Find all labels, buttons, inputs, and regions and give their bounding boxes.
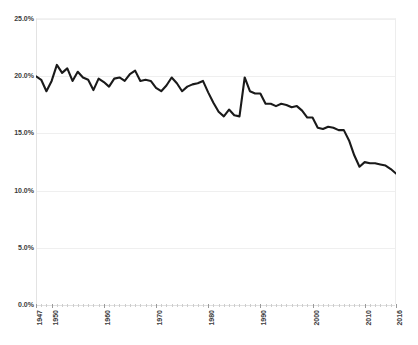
x-axis-minor-tick: [172, 304, 173, 307]
x-axis-minor-tick: [88, 304, 89, 307]
x-axis-minor-tick: [114, 304, 115, 307]
x-axis-minor-tick: [193, 304, 194, 307]
x-axis-minor-tick: [349, 304, 350, 307]
x-axis-minor-tick: [297, 304, 298, 307]
x-axis-minor-tick: [344, 304, 345, 307]
x-axis-minor-tick: [119, 304, 120, 307]
x-axis-major-tick: [396, 304, 397, 308]
x-axis-tick-label: 1950: [51, 310, 58, 326]
x-axis-minor-tick: [203, 304, 204, 307]
y-axis-tick-label: 5.0%: [18, 243, 34, 250]
y-axis-tick-label: 20.0%: [14, 72, 34, 79]
x-axis-minor-tick: [62, 304, 63, 307]
x-axis-tick-label: 1947: [36, 310, 43, 326]
x-axis-minor-tick: [213, 304, 214, 307]
x-axis-minor-tick: [146, 304, 147, 307]
x-axis-minor-tick: [391, 304, 392, 307]
x-axis-minor-tick: [239, 304, 240, 307]
x-axis-tick-label: 2010: [364, 310, 371, 326]
x-axis-minor-tick: [219, 304, 220, 307]
x-axis-minor-tick: [109, 304, 110, 307]
x-axis-major-tick: [208, 304, 209, 308]
x-axis-tick-label: 1970: [156, 310, 163, 326]
x-axis-minor-tick: [161, 304, 162, 307]
x-axis-minor-tick: [359, 304, 360, 307]
x-axis-ticks: [36, 304, 396, 308]
x-axis-minor-tick: [99, 304, 100, 307]
x-axis-minor-tick: [339, 304, 340, 307]
x-axis-minor-tick: [73, 304, 74, 307]
x-axis-minor-tick: [375, 304, 376, 307]
x-axis-minor-tick: [224, 304, 225, 307]
x-axis-major-tick: [104, 304, 105, 308]
x-axis-tick-label: 2000: [312, 310, 319, 326]
x-axis-minor-tick: [125, 304, 126, 307]
series-polyline: [36, 65, 396, 174]
x-axis-minor-tick: [140, 304, 141, 307]
x-axis-minor-tick: [83, 304, 84, 307]
x-axis-major-tick: [52, 304, 53, 308]
x-axis-minor-tick: [177, 304, 178, 307]
x-axis-minor-tick: [57, 304, 58, 307]
x-axis-minor-tick: [151, 304, 152, 307]
x-axis-minor-tick: [78, 304, 79, 307]
x-axis-minor-tick: [41, 304, 42, 307]
x-axis-minor-tick: [187, 304, 188, 307]
x-axis-minor-tick: [333, 304, 334, 307]
x-axis-minor-tick: [67, 304, 68, 307]
x-axis-tick-label: 1960: [103, 310, 110, 326]
x-axis-minor-tick: [166, 304, 167, 307]
x-axis-minor-tick: [323, 304, 324, 307]
x-axis-tick-label: 1980: [208, 310, 215, 326]
x-axis-minor-tick: [286, 304, 287, 307]
x-axis-minor-tick: [182, 304, 183, 307]
x-axis-minor-tick: [302, 304, 303, 307]
x-axis-minor-tick: [276, 304, 277, 307]
x-axis-tick-label: 1990: [260, 310, 267, 326]
y-axis-tick-label: 0.0%: [18, 301, 34, 308]
y-axis-tick-labels: 25.0%20.0%15.0%10.0%5.0%0.0%: [0, 0, 34, 320]
line-series: [36, 18, 396, 304]
x-axis-minor-tick: [386, 304, 387, 307]
x-axis-major-tick: [260, 304, 261, 308]
x-axis-minor-tick: [93, 304, 94, 307]
chart-figure: 25.0%20.0%15.0%10.0%5.0%0.0% 19471950196…: [0, 0, 418, 345]
x-axis-minor-tick: [370, 304, 371, 307]
y-axis-tick-label: 15.0%: [14, 129, 34, 136]
x-axis-minor-tick: [250, 304, 251, 307]
x-axis-major-tick: [156, 304, 157, 308]
x-axis-minor-tick: [46, 304, 47, 307]
x-axis-major-tick: [313, 304, 314, 308]
y-axis-tick-label: 10.0%: [14, 186, 34, 193]
x-axis-major-tick: [36, 304, 37, 308]
x-axis-minor-tick: [245, 304, 246, 307]
x-axis-minor-tick: [318, 304, 319, 307]
x-axis-minor-tick: [130, 304, 131, 307]
x-axis-minor-tick: [328, 304, 329, 307]
x-axis-minor-tick: [281, 304, 282, 307]
x-axis-minor-tick: [271, 304, 272, 307]
x-axis-major-tick: [365, 304, 366, 308]
x-axis-minor-tick: [198, 304, 199, 307]
x-axis-minor-tick: [292, 304, 293, 307]
x-axis-minor-tick: [255, 304, 256, 307]
y-axis-tick-label: 25.0%: [14, 15, 34, 22]
x-axis-minor-tick: [307, 304, 308, 307]
x-axis-minor-tick: [354, 304, 355, 307]
x-axis-tick-label: 2016: [396, 310, 403, 326]
x-axis-minor-tick: [380, 304, 381, 307]
x-axis-minor-tick: [229, 304, 230, 307]
x-axis-minor-tick: [234, 304, 235, 307]
x-axis-minor-tick: [135, 304, 136, 307]
x-axis-minor-tick: [266, 304, 267, 307]
